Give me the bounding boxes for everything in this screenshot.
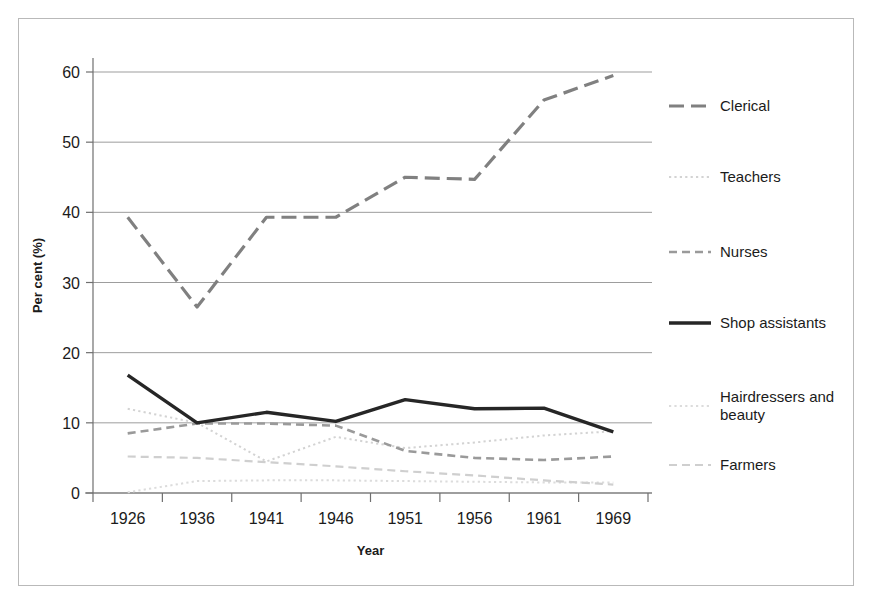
x-tick-label: 1926 — [110, 510, 146, 527]
series-line — [128, 424, 614, 460]
legend-swatch-icon — [668, 316, 712, 330]
series-line — [128, 76, 614, 308]
y-tick-labels: 0102030405060 — [62, 64, 80, 502]
legend-swatch-icon — [668, 245, 712, 259]
figure-canvas: 0102030405060 19261936194119461951195619… — [0, 0, 875, 604]
y-tick-label: 10 — [62, 415, 80, 432]
x-tick-label: 1969 — [596, 510, 632, 527]
legend-item-hairdressers-and-beauty[interactable]: Hairdressers and beauty — [668, 388, 834, 425]
y-tick-label: 20 — [62, 345, 80, 362]
legend-swatch-icon — [668, 170, 712, 184]
x-tick-label: 1961 — [526, 510, 562, 527]
legend-item-farmers[interactable]: Farmers — [668, 456, 776, 474]
x-tick-label: 1956 — [457, 510, 493, 527]
legend-label: Teachers — [720, 168, 781, 186]
x-tick-label: 1951 — [387, 510, 423, 527]
legend-swatch-icon — [668, 99, 712, 113]
legend-item-nurses[interactable]: Nurses — [668, 243, 768, 261]
y-tick-label: 40 — [62, 204, 80, 221]
legend-item-teachers[interactable]: Teachers — [668, 168, 781, 186]
legend-item-clerical[interactable]: Clerical — [668, 97, 770, 115]
gridlines — [93, 72, 652, 493]
series-lines — [128, 76, 614, 493]
x-axis-title: Year — [357, 543, 384, 558]
series-line — [128, 480, 614, 492]
x-tick-label: 1936 — [179, 510, 215, 527]
legend-label: Nurses — [720, 243, 768, 261]
x-tick-label: 1946 — [318, 510, 354, 527]
legend-swatch-icon — [668, 399, 712, 413]
y-tick-label: 50 — [62, 134, 80, 151]
axis-ticks — [86, 72, 648, 502]
y-tick-label: 30 — [62, 275, 80, 292]
x-tick-labels: 19261936194119461951195619611969 — [110, 510, 631, 527]
legend-label: Shop assistants — [720, 314, 826, 332]
series-line — [128, 375, 614, 432]
legend-label: Clerical — [720, 97, 770, 115]
series-line — [128, 409, 614, 462]
y-tick-label: 0 — [71, 485, 80, 502]
legend-label: Hairdressers and beauty — [720, 388, 834, 425]
x-tick-label: 1941 — [249, 510, 285, 527]
line-chart: 0102030405060 19261936194119461951195619… — [0, 0, 875, 604]
y-tick-label: 60 — [62, 64, 80, 81]
legend-item-shop-assistants[interactable]: Shop assistants — [668, 314, 826, 332]
legend-swatch-icon — [668, 458, 712, 472]
y-axis-title: Per cent (%) — [30, 238, 45, 313]
legend-label: Farmers — [720, 456, 776, 474]
